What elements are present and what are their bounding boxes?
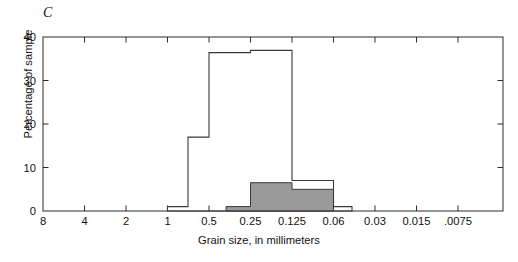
right-axis-ticks xyxy=(498,81,504,168)
shaded-histogram-series xyxy=(226,183,334,211)
figure-container: C Percentage of sample Grain size, in mi… xyxy=(0,0,518,262)
top-axis-ticks xyxy=(85,37,459,43)
y-axis-ticks xyxy=(43,81,49,168)
histogram-plot xyxy=(0,0,518,262)
